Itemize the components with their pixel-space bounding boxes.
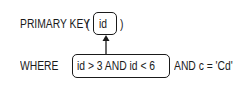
- arrow-head-icon: [103, 35, 110, 41]
- where-keyword: WHERE: [20, 59, 58, 73]
- remaining-condition-text: AND c = 'Cd': [174, 59, 233, 73]
- range-condition-text: id > 3 AND id < 6: [77, 59, 155, 73]
